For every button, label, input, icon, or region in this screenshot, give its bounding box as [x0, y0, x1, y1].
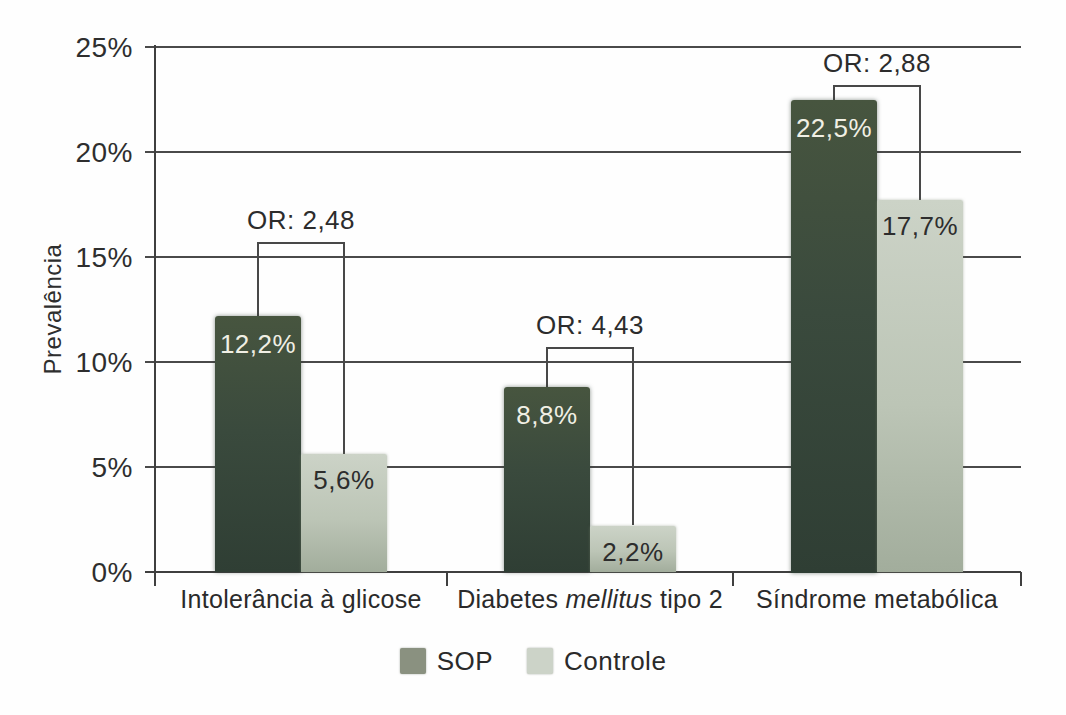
y-tick-label: 5%	[43, 452, 133, 484]
legend: SOPControle	[0, 644, 1066, 678]
legend-entry-controle: Controle	[527, 646, 666, 677]
controle-value-label: 17,7%	[877, 211, 963, 242]
odds-ratio-label: OR: 4,43	[440, 310, 740, 341]
odds-ratio-label: OR: 2,88	[727, 48, 1027, 79]
or-bracket-top	[258, 242, 344, 244]
legend-label-controle: Controle	[564, 646, 666, 677]
y-tick-label: 20%	[43, 137, 133, 169]
controle-value-label: 2,2%	[590, 537, 676, 568]
y-tick-label: 0%	[43, 557, 133, 589]
category-tick	[732, 572, 734, 586]
category-label-italic: mellitus	[565, 585, 652, 613]
legend-swatch-controle	[527, 648, 553, 674]
y-axis-title: Prevalência	[39, 199, 65, 419]
legend-entry-sop: SOP	[400, 646, 493, 677]
sop-bar	[791, 100, 877, 573]
y-axis-line	[154, 45, 156, 586]
or-bracket-right-leg	[343, 242, 345, 454]
legend-swatch-sop	[400, 648, 426, 674]
sop-value-label: 8,8%	[504, 400, 590, 431]
odds-ratio-label: OR: 2,48	[151, 205, 451, 236]
prevalence-bar-chart: Prevalência SOPControle 25%20%15%10%5%0%…	[0, 0, 1066, 715]
or-bracket-left-leg	[257, 242, 259, 316]
category-tick	[1020, 572, 1022, 586]
or-bracket-left-leg	[546, 347, 548, 387]
or-bracket-top	[547, 347, 633, 349]
controle-bar	[877, 200, 963, 572]
category-tick	[446, 572, 448, 586]
legend-label-sop: SOP	[437, 646, 493, 677]
or-bracket-right-leg	[919, 85, 921, 201]
controle-value-label: 5,6%	[301, 465, 387, 496]
y-tick-label: 15%	[43, 242, 133, 274]
y-tick-label: 10%	[43, 347, 133, 379]
sop-value-label: 22,5%	[791, 113, 877, 144]
sop-value-label: 12,2%	[215, 329, 301, 360]
y-tick-label: 25%	[43, 32, 133, 64]
category-label: Síndrome metabólica	[707, 585, 1047, 614]
gridline-20%	[145, 151, 1021, 153]
or-bracket-left-leg	[833, 85, 835, 100]
or-bracket-right-leg	[632, 347, 634, 525]
or-bracket-top	[834, 85, 920, 87]
